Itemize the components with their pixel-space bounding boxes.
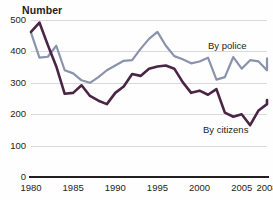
y-tick-label-100: 100 [3, 140, 26, 151]
x-tick-label-2000: 2000 [187, 182, 213, 193]
line-chart: Number 0100200300400500 1980198519901995… [0, 0, 273, 200]
legend-label-by-police: By police [208, 40, 247, 51]
x-tick-label-1980: 1980 [18, 182, 44, 193]
y-tick-label-400: 400 [3, 45, 26, 56]
y-tick-label-500: 500 [3, 14, 26, 25]
y-tick-label-200: 200 [3, 108, 26, 119]
y-tick-label-0: 0 [3, 171, 26, 182]
x-tick-label-1995: 1995 [144, 182, 170, 193]
x-tick-label-2005: 2005 [229, 182, 255, 193]
x-tick-label-2008: 2008 [254, 182, 273, 193]
chart-axis-title: Number [22, 4, 62, 16]
x-tick-label-1990: 1990 [102, 182, 128, 193]
legend-label-by-citizens: By citizens [203, 124, 248, 135]
y-tick-label-300: 300 [3, 77, 26, 88]
x-tick-label-1985: 1985 [60, 182, 86, 193]
